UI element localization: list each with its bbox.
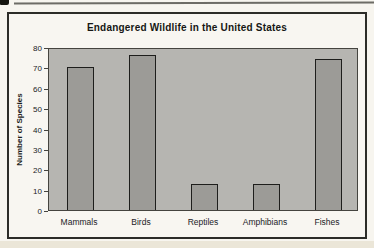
y-tick-mark bbox=[44, 130, 48, 131]
y-tick-label-40: 40 bbox=[22, 125, 42, 134]
bar-fishes bbox=[315, 59, 342, 210]
x-label-birds: Birds bbox=[110, 217, 172, 227]
bar-mammals bbox=[67, 67, 94, 210]
page-corner-artifact bbox=[0, 0, 9, 5]
chart-frame: Endangered Wildlife in the United States… bbox=[7, 12, 367, 239]
x-label-reptiles: Reptiles bbox=[172, 217, 234, 227]
y-tick-mark bbox=[44, 89, 48, 90]
bar-reptiles bbox=[191, 184, 218, 210]
y-tick-label-30: 30 bbox=[22, 145, 42, 154]
y-tick-mark bbox=[44, 68, 48, 69]
bar-amphibians bbox=[253, 184, 280, 210]
y-tick-label-10: 10 bbox=[22, 186, 42, 195]
y-tick-mark bbox=[44, 170, 48, 171]
y-tick-mark bbox=[44, 191, 48, 192]
y-tick-label-0: 0 bbox=[22, 207, 42, 216]
bar-birds bbox=[129, 55, 156, 210]
x-label-amphibians: Amphibians bbox=[234, 217, 296, 227]
x-label-mammals: Mammals bbox=[48, 217, 110, 227]
y-tick-label-70: 70 bbox=[22, 64, 42, 73]
y-tick-label-80: 80 bbox=[22, 44, 42, 53]
y-tick-mark bbox=[44, 109, 48, 110]
plot-area bbox=[48, 48, 358, 211]
y-tick-mark bbox=[44, 48, 48, 49]
y-tick-label-20: 20 bbox=[22, 166, 42, 175]
y-tick-label-50: 50 bbox=[22, 105, 42, 114]
page-bottom-band bbox=[0, 241, 374, 248]
scanned-page: Endangered Wildlife in the United States… bbox=[0, 0, 374, 248]
y-tick-label-60: 60 bbox=[22, 84, 42, 93]
x-label-fishes: Fishes bbox=[296, 217, 358, 227]
page-edge-artifact-line bbox=[14, 2, 374, 5]
chart-title: Endangered Wildlife in the United States bbox=[9, 22, 365, 33]
y-tick-mark bbox=[44, 211, 48, 212]
y-tick-mark bbox=[44, 150, 48, 151]
